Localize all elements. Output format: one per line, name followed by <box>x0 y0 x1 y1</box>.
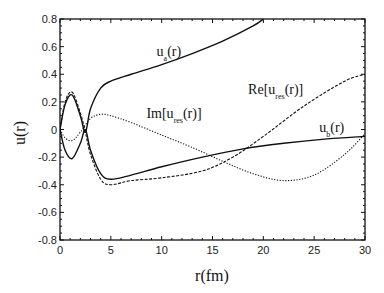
y-tick-label: 0.8 <box>42 13 57 25</box>
series-u-b-r <box>60 129 365 179</box>
x-axis-label: r(fm) <box>195 267 229 285</box>
x-tick-label: 10 <box>156 244 168 256</box>
x-tick-label: 15 <box>206 244 218 256</box>
curve-annotations: ua(r)Im[ures(r)]Re[ures(r)]ub(r) <box>146 44 344 139</box>
x-tick-label: 20 <box>257 244 269 256</box>
y-tick-label: 0.4 <box>42 68 57 80</box>
y-tick-label: -0.8 <box>38 234 57 246</box>
x-tick-label: 30 <box>359 244 371 256</box>
annotation-label: ua(r) <box>157 44 182 63</box>
y-tick-label: -0.2 <box>38 151 57 163</box>
y-tick-label: -0.6 <box>38 206 57 218</box>
x-tick-label: 5 <box>108 244 114 256</box>
plot-curves <box>60 19 365 185</box>
x-tick-label: 0 <box>57 244 63 256</box>
line-chart: 0510152025300.80.60.40.20-0.2-0.4-0.6-0.… <box>0 0 384 293</box>
y-tick-label: 0 <box>51 124 57 136</box>
y-tick-label: 0.6 <box>42 41 57 53</box>
y-tick-label: 0.2 <box>42 96 57 108</box>
annotation-label: Re[ures(r)] <box>248 82 303 101</box>
y-axis-label: u(r) <box>11 121 29 145</box>
x-tick-label: 25 <box>308 244 320 256</box>
y-tick-label: -0.4 <box>38 179 57 191</box>
annotation-label: ub(r) <box>319 120 344 139</box>
annotation-label: Im[ures(r)] <box>146 106 201 125</box>
